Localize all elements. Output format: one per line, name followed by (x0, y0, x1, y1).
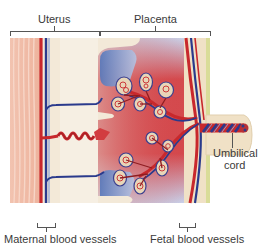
placenta-bracket-tick (155, 26, 156, 31)
placenta-label: Placenta (134, 13, 177, 25)
uterus-bracket (10, 31, 100, 36)
fetal-vessels-bracket-tick (187, 228, 188, 232)
uterus-bracket-tick (54, 26, 55, 31)
maternal-blood-vessels-label: Maternal blood vessels (4, 233, 117, 245)
placenta-bracket (100, 31, 211, 36)
fetal-blood-vessels-label: Fetal blood vessels (150, 233, 244, 245)
umbilical-cord-label-line1: Umbilical (213, 147, 258, 159)
uterus-label: Uterus (38, 13, 70, 25)
placenta-diagram-illustration (0, 0, 262, 252)
maternal-vessels-bracket-tick (46, 228, 47, 232)
umbilical-cord-label-line2: cord (224, 159, 245, 171)
umbilical-cord-leader-line (232, 133, 233, 148)
